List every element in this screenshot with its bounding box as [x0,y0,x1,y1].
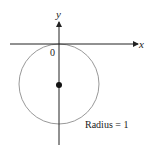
radius-annotation: Radius = 1 [85,119,128,130]
unit-circle-diagram: x y 0 Radius = 1 [0,0,151,156]
origin-label: 0 [50,47,55,58]
x-axis-label: x [138,38,144,50]
y-axis-label: y [55,8,61,20]
center-point [56,82,62,88]
